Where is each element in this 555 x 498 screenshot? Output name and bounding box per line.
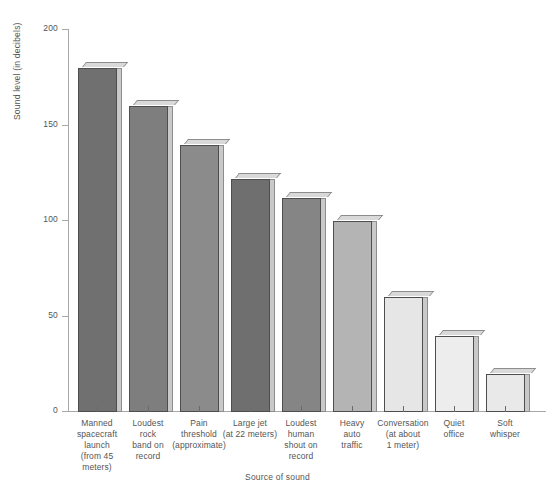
bar-top-face — [82, 62, 128, 67]
x-tick-mark — [148, 406, 149, 412]
bar[interactable] — [435, 330, 479, 412]
sound-level-bar-chart: Sound level (in decibels) 050100150200 M… — [0, 0, 555, 498]
y-tick-label: 100 — [22, 214, 58, 224]
bar-top-face — [184, 139, 230, 144]
bar-top-face — [388, 291, 434, 296]
bar-body — [231, 173, 275, 412]
x-tick-mark — [301, 406, 302, 412]
bar-body — [384, 291, 428, 412]
bar-side-face — [168, 106, 173, 412]
bar-body — [435, 330, 479, 412]
bar[interactable] — [486, 368, 530, 412]
bar-top-face — [490, 368, 536, 373]
bar-top-face — [286, 192, 332, 197]
x-tick-mark — [352, 406, 353, 412]
x-tick-label-line: (approximate) — [163, 440, 235, 451]
bar-top-face — [133, 100, 179, 105]
x-tick-label: Softwhisper — [469, 418, 541, 440]
y-tick-label: 0 — [22, 405, 58, 415]
bar[interactable] — [180, 139, 224, 412]
x-tick-label-line: record — [265, 451, 337, 462]
bar-front-face — [231, 179, 270, 412]
x-tick-label-line: Soft — [469, 418, 541, 429]
y-tick-label: 50 — [22, 310, 58, 320]
x-axis-title: Source of sound — [0, 472, 555, 482]
bar-side-face — [270, 179, 275, 412]
bar-body — [333, 215, 377, 412]
x-tick-label-line: whisper — [469, 429, 541, 440]
x-tick-mark — [403, 406, 404, 412]
bar[interactable] — [231, 173, 275, 412]
bar[interactable] — [333, 215, 377, 412]
bar-body — [282, 192, 326, 412]
y-tick-label: 150 — [22, 119, 58, 129]
bar-front-face — [435, 336, 474, 412]
bar-top-face — [235, 173, 281, 178]
x-tick-mark — [505, 406, 506, 412]
bar-side-face — [474, 336, 479, 412]
bar-body — [129, 100, 173, 412]
y-tick-label: 200 — [22, 23, 58, 33]
bar[interactable] — [78, 62, 122, 412]
bar[interactable] — [384, 291, 428, 412]
x-tick-mark — [199, 406, 200, 412]
bar[interactable] — [129, 100, 173, 412]
bar-body — [78, 62, 122, 412]
bar-side-face — [525, 374, 530, 412]
bar-body — [486, 368, 530, 412]
bar-side-face — [321, 198, 326, 412]
bar-side-face — [219, 145, 224, 412]
bar-front-face — [384, 297, 423, 412]
bar-side-face — [423, 297, 428, 412]
bar-top-face — [337, 215, 383, 220]
bar-body — [180, 139, 224, 412]
x-tick-label-line: record — [112, 451, 184, 462]
bar-front-face — [333, 221, 372, 412]
bar-side-face — [117, 68, 122, 412]
plot-area — [68, 29, 546, 412]
bar-front-face — [282, 198, 321, 412]
bar-front-face — [78, 68, 117, 412]
x-tick-mark — [454, 406, 455, 412]
bar-side-face — [372, 221, 377, 412]
y-axis-title: Sound level (in decibels) — [12, 0, 26, 120]
bar-top-face — [439, 330, 485, 335]
x-tick-mark — [250, 406, 251, 412]
x-tick-mark — [97, 406, 98, 412]
bar[interactable] — [282, 192, 326, 412]
x-tick-label-line: 1 meter) — [367, 440, 439, 451]
bar-front-face — [129, 106, 168, 412]
bar-front-face — [180, 145, 219, 412]
